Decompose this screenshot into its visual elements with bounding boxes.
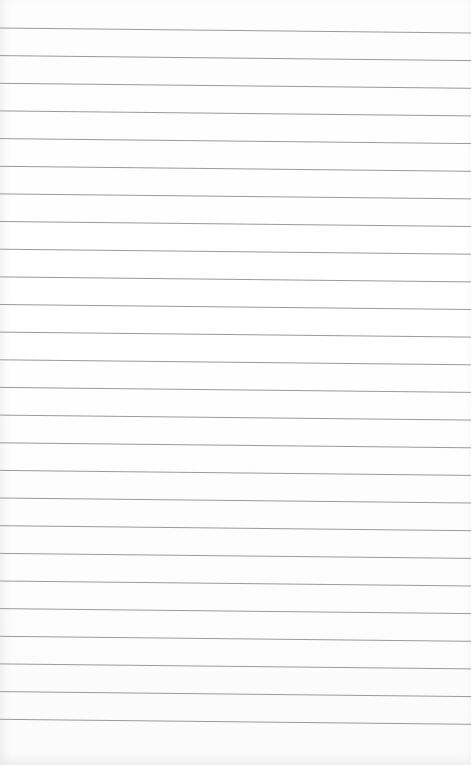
ruled-line <box>0 28 471 33</box>
ruled-line <box>0 581 471 586</box>
ruled-line <box>0 360 471 365</box>
ruled-line <box>0 249 471 254</box>
ruled-line <box>0 387 471 392</box>
ruled-line <box>0 664 471 669</box>
ruled-line <box>0 139 471 144</box>
ruled-line <box>0 222 471 227</box>
ruled-line <box>0 415 471 420</box>
ruled-lines <box>0 0 471 765</box>
ruled-line <box>0 443 471 448</box>
ruled-line <box>0 553 471 558</box>
ruled-line <box>0 470 471 475</box>
ruled-line <box>0 719 471 724</box>
ruled-line <box>0 194 471 199</box>
lined-paper-sheet <box>0 0 471 765</box>
ruled-line <box>0 305 471 310</box>
ruled-line <box>0 609 471 614</box>
ruled-line <box>0 166 471 171</box>
ruled-line <box>0 56 471 61</box>
ruled-line <box>0 111 471 116</box>
ruled-line <box>0 277 471 282</box>
ruled-line <box>0 332 471 337</box>
ruled-line <box>0 636 471 641</box>
ruled-line <box>0 498 471 503</box>
ruled-line <box>0 692 471 697</box>
ruled-line <box>0 83 471 88</box>
ruled-line <box>0 526 471 531</box>
